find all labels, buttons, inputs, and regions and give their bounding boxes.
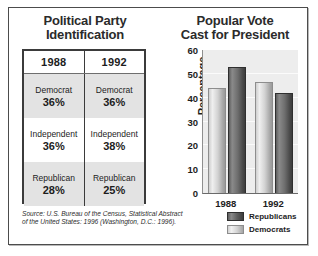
legend-item-democrats: Democrats bbox=[227, 223, 297, 236]
cell-1988-independent: Independent 36% bbox=[24, 118, 84, 162]
cell-value: 36% bbox=[24, 141, 84, 152]
x-axis-tick-label: 1988 bbox=[215, 198, 236, 209]
bar-democrats-1992 bbox=[255, 82, 273, 193]
cell-label: Democrat bbox=[24, 85, 84, 96]
legend-swatch-democrats-icon bbox=[227, 225, 244, 234]
y-axis-tick-label: 0 bbox=[193, 188, 198, 199]
legend-label-democrats: Democrats bbox=[249, 225, 290, 234]
column-header-1992: 1992 bbox=[84, 51, 144, 74]
plot-wrapper: 010203040506019881992 bbox=[202, 50, 298, 194]
table-row: Independent 36% Independent 38% bbox=[24, 118, 144, 162]
y-axis-tick-label: 30 bbox=[187, 116, 198, 127]
legend-swatch-republicans-icon bbox=[227, 212, 244, 221]
cell-value: 36% bbox=[85, 97, 145, 108]
table-title-line2: Identification bbox=[13, 28, 157, 42]
y-axis-tick-label: 60 bbox=[187, 45, 198, 56]
cell-label: Republican bbox=[24, 173, 84, 184]
y-axis-tick-label: 50 bbox=[187, 68, 198, 79]
popular-vote-chart-panel: Popular Vote Cast for President Percenta… bbox=[161, 8, 309, 246]
chart-legend: Republicans Democrats bbox=[227, 210, 297, 236]
y-axis-tick-label: 20 bbox=[187, 140, 198, 151]
cell-1988-republican: Republican 28% bbox=[24, 162, 84, 206]
x-axis-tick-label: 1992 bbox=[263, 198, 284, 209]
plot-area bbox=[202, 50, 298, 194]
bar-republicans-1988 bbox=[228, 67, 246, 193]
chart-title-line2: Cast for President bbox=[161, 28, 309, 42]
cell-1992-independent: Independent 38% bbox=[84, 118, 144, 162]
cell-label: Independent bbox=[85, 129, 145, 140]
chart-title: Popular Vote Cast for President bbox=[161, 14, 309, 42]
cell-value: 28% bbox=[24, 185, 84, 196]
political-party-identification-panel: Political Party Identification 1988 1992 bbox=[9, 8, 161, 246]
cell-label: Independent bbox=[24, 129, 84, 140]
cell-value: 36% bbox=[24, 97, 84, 108]
chart-title-line1: Popular Vote bbox=[161, 14, 309, 28]
legend-label-republicans: Republicans bbox=[249, 212, 297, 221]
gridline bbox=[203, 73, 298, 74]
bar-democrats-1988 bbox=[208, 88, 226, 193]
cell-1988-democrat: Democrat 36% bbox=[24, 74, 84, 119]
cell-1992-republican: Republican 25% bbox=[84, 162, 144, 206]
figure-frame: Political Party Identification 1988 1992 bbox=[8, 7, 308, 245]
table-title: Political Party Identification bbox=[13, 14, 157, 42]
table-row: Republican 28% Republican 25% bbox=[24, 162, 144, 206]
cell-label: Democrat bbox=[85, 85, 145, 96]
table-header-row: 1988 1992 bbox=[24, 51, 144, 74]
legend-item-republicans: Republicans bbox=[227, 210, 297, 223]
table-title-line1: Political Party bbox=[13, 14, 157, 28]
table-row: Democrat 36% Democrat 36% bbox=[24, 74, 144, 119]
cell-value: 25% bbox=[85, 185, 145, 196]
column-header-1988: 1988 bbox=[24, 51, 84, 74]
cell-label: Republican bbox=[85, 173, 145, 184]
y-axis-tick-label: 10 bbox=[187, 164, 198, 175]
cell-value: 38% bbox=[85, 141, 145, 152]
y-axis-tick-label: 40 bbox=[187, 92, 198, 103]
cell-1992-democrat: Democrat 36% bbox=[84, 74, 144, 119]
party-identification-table: 1988 1992 Democrat 36% Democrat bbox=[22, 49, 146, 204]
bar-republicans-1992 bbox=[275, 93, 293, 193]
